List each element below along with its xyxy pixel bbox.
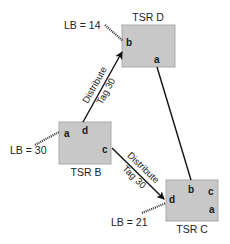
tsr-d-label: TSR D xyxy=(132,11,164,23)
tsr-c-port-b: b xyxy=(188,184,194,195)
tsr-d-lb-label: LB = 14 xyxy=(64,19,101,31)
tsr-b-label: TSR B xyxy=(71,166,102,178)
tsr-d-lb-dotted-line xyxy=(105,25,123,41)
tsr-c-lb-dotted-line xyxy=(142,203,166,213)
tsr-c-lb-label: LB = 21 xyxy=(111,216,148,228)
tsr-c-port-a: a xyxy=(209,204,215,215)
link-d-to-c xyxy=(157,67,191,180)
tsr-distribution-diagram: TSR D b a LB = 14 a d c TSR B LB = 30 b … xyxy=(0,0,230,244)
tsr-d-port-a: a xyxy=(154,54,160,65)
node-tsr-c: b c d a TSR C LB = 21 xyxy=(111,180,218,235)
edge-b-to-c: Distribute Tag 30 xyxy=(112,148,164,199)
tsr-c-port-c: c xyxy=(208,186,214,197)
tsr-d-port-b: b xyxy=(126,37,132,48)
tsr-b-port-c: c xyxy=(102,144,108,155)
tsr-c-port-d: d xyxy=(169,194,175,205)
node-tsr-b: a d c TSR B LB = 30 xyxy=(10,122,111,178)
tsr-b-port-a: a xyxy=(64,128,70,139)
node-tsr-d: TSR D b a LB = 14 xyxy=(64,11,175,67)
edge-b-to-d: Distribute Tag 30 xyxy=(80,52,122,122)
tsr-b-lb-label: LB = 30 xyxy=(10,144,47,156)
tsr-c-label: TSR C xyxy=(176,223,208,235)
tsr-b-port-d: d xyxy=(82,125,88,136)
